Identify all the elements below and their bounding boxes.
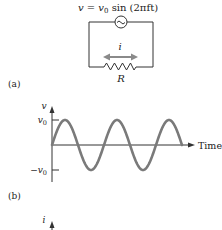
y-tick-label-neg: −v0 — [30, 165, 47, 177]
y-axis-arrow-icon — [50, 106, 55, 113]
x-axis-arrow-icon — [188, 143, 195, 148]
y-axis-label: v — [41, 101, 46, 111]
next-panel-axis-arrow-icon — [50, 221, 55, 228]
equation-equals: = — [84, 2, 99, 13]
current-label: i — [118, 41, 121, 52]
equation-rest: sin (2πft) — [108, 2, 158, 13]
panel-b-label: (b) — [8, 191, 21, 201]
figure: v = v0 sin (2πft) i R (a) v Time v0 − — [0, 0, 222, 230]
y-tick-label-pos: v0 — [38, 115, 47, 127]
equation: v = v0 sin (2πft) — [78, 2, 158, 15]
voltage-chart: v Time v0 −v0 — [30, 101, 222, 182]
resistor-icon — [104, 63, 136, 70]
current-arrow-icon — [103, 54, 138, 61]
panel-a-label: (a) — [8, 79, 20, 89]
next-panel-axis-label: i — [43, 215, 46, 225]
x-axis-label: Time — [198, 140, 222, 151]
resistor-label: R — [116, 73, 125, 84]
